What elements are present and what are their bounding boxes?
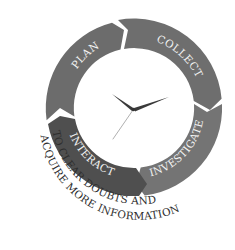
cycle-diagram: PLAN COLLECT INVESTIGATE INTERACT TO CLE… xyxy=(0,0,235,250)
hour-hand xyxy=(112,94,134,111)
second-hand xyxy=(113,110,133,139)
segment-collect xyxy=(118,19,222,110)
clock-pivot xyxy=(132,108,136,112)
clock-icon xyxy=(112,94,169,139)
segment-plan xyxy=(46,23,124,121)
minute-hand xyxy=(134,97,169,112)
